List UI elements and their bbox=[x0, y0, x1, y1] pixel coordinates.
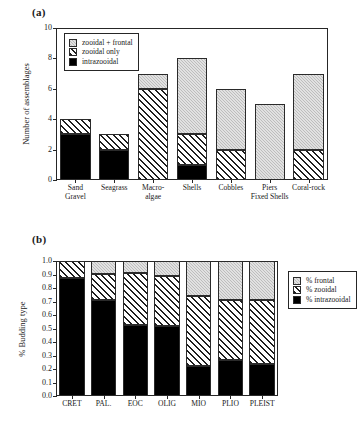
bar-cret bbox=[59, 261, 84, 396]
bar-segment-zooidal bbox=[249, 300, 274, 364]
y-tick-label: 0.7 bbox=[30, 298, 52, 306]
bar-coral-rock bbox=[293, 28, 323, 180]
bar-segment-intrazooidal bbox=[177, 165, 207, 180]
x-tick-label: Shells bbox=[170, 184, 214, 193]
x-tick-label: PLEIST bbox=[245, 400, 279, 409]
bar-cobbles bbox=[216, 28, 246, 180]
chart-a-y-axis-title: Number of assemblages bbox=[21, 63, 31, 145]
bar-segment-zooidal-frontal bbox=[177, 58, 207, 134]
chart-a-legend: zooidal + frontalzooidal onlyintrazooida… bbox=[64, 33, 139, 71]
bar-segment-zooidal-frontal bbox=[293, 74, 323, 150]
legend-swatch-icon bbox=[293, 277, 301, 285]
bar-segment-intrazooidal bbox=[249, 364, 274, 396]
y-tick-mark bbox=[53, 261, 57, 262]
y-tick-mark bbox=[53, 28, 57, 29]
y-tick-label: 1.0 bbox=[30, 257, 52, 265]
y-tick-label: 0.9 bbox=[30, 271, 52, 279]
legend-label: % frontal bbox=[306, 277, 334, 285]
bar-segment-zooidal bbox=[154, 276, 179, 326]
bar-segment-frontal bbox=[154, 261, 179, 276]
bar-segment-frontal bbox=[249, 261, 274, 300]
y-tick-label: 6 bbox=[30, 85, 52, 93]
legend-label: % intrazooidal bbox=[306, 296, 351, 304]
bar-segment-intrazooidal bbox=[91, 300, 116, 396]
y-tick-label: 0 bbox=[30, 176, 52, 184]
bar-segment-zooidal-frontal bbox=[216, 89, 246, 150]
bar-segment-zooidal bbox=[91, 274, 116, 300]
bar-piers bbox=[255, 28, 285, 180]
y-tick-label: 2 bbox=[30, 146, 52, 154]
y-tick-label: 0.6 bbox=[30, 311, 52, 319]
y-tick-label: 0.2 bbox=[30, 365, 52, 373]
bar-segment-zooidal-only bbox=[99, 134, 129, 149]
legend-swatch-icon bbox=[293, 286, 301, 294]
bar-segment-zooidal-only bbox=[138, 89, 168, 180]
bar-segment-zooidal-only bbox=[60, 119, 90, 134]
bar-segment-intrazooidal bbox=[59, 278, 84, 396]
bar-segment-intrazooidal bbox=[99, 150, 129, 180]
bar-segment-intrazooidal bbox=[154, 326, 179, 396]
legend-item: % zooidal bbox=[293, 286, 351, 294]
bar-pleist bbox=[249, 261, 274, 396]
bar-segment-zooidal-only bbox=[177, 134, 207, 164]
x-tick-label: PAL. bbox=[87, 400, 121, 409]
panel-a: (a) Number of assemblages 0246810 Sand G… bbox=[0, 0, 364, 215]
chart-b-plot bbox=[56, 261, 278, 396]
x-tick-label: Sand Gravel bbox=[53, 184, 97, 201]
legend-label: % zooidal bbox=[306, 286, 337, 294]
y-tick-mark bbox=[53, 315, 57, 316]
y-tick-label: 0.1 bbox=[30, 379, 52, 387]
bar-olig bbox=[154, 261, 179, 396]
chart-b-y-axis-title: % Budding type bbox=[17, 301, 27, 356]
bar-mio bbox=[186, 261, 211, 396]
bar-eoc bbox=[123, 261, 148, 396]
y-tick-mark bbox=[53, 288, 57, 289]
x-tick-label: Coral-rock bbox=[287, 184, 331, 193]
legend-swatch-icon bbox=[69, 58, 77, 66]
panel-a-label: (a) bbox=[32, 6, 46, 18]
legend-item: % frontal bbox=[293, 277, 351, 285]
y-tick-mark bbox=[53, 396, 57, 397]
bar-segment-frontal bbox=[91, 261, 116, 274]
x-tick-label: MIO bbox=[182, 400, 216, 409]
bar-segment-frontal bbox=[123, 261, 148, 273]
y-tick-label: 8 bbox=[30, 54, 52, 62]
y-tick-mark bbox=[53, 383, 57, 384]
bar-segment-zooidal-only bbox=[293, 150, 323, 180]
legend-label: intrazooidal bbox=[82, 58, 118, 66]
y-tick-label: 0.0 bbox=[30, 392, 52, 400]
x-tick-label: EOC bbox=[118, 400, 152, 409]
bar-segment-frontal bbox=[218, 261, 243, 300]
x-tick-label: PLIO bbox=[213, 400, 247, 409]
y-tick-label: 10 bbox=[30, 24, 52, 32]
bar-segment-zooidal bbox=[218, 300, 243, 359]
legend-item: zooidal + frontal bbox=[69, 39, 133, 47]
legend-label: zooidal + frontal bbox=[82, 39, 133, 47]
legend-swatch-icon bbox=[69, 48, 77, 56]
bar-segment-intrazooidal bbox=[218, 360, 243, 396]
y-tick-mark bbox=[53, 342, 57, 343]
legend-item: zooidal only bbox=[69, 48, 133, 56]
bar-segment-intrazooidal bbox=[123, 325, 148, 396]
panel-b-label: (b) bbox=[32, 233, 46, 245]
bar-segment-zooidal bbox=[123, 273, 148, 325]
legend-swatch-icon bbox=[69, 39, 77, 47]
y-tick-label: 0.4 bbox=[30, 338, 52, 346]
y-tick-mark bbox=[53, 119, 57, 120]
chart-b-bars bbox=[56, 261, 278, 396]
bar-shells bbox=[177, 28, 207, 180]
panel-b: (b) % Budding type 0.00.10.20.30.40.50.6… bbox=[0, 215, 364, 438]
bar-macro bbox=[138, 28, 168, 180]
y-tick-mark bbox=[53, 180, 57, 181]
x-tick-label: Macro- algae bbox=[131, 184, 175, 201]
y-tick-mark bbox=[53, 275, 57, 276]
chart-b-legend: % frontal% zooidal% intrazooidal bbox=[288, 271, 357, 309]
bar-segment-zooidal-frontal bbox=[255, 104, 285, 180]
x-tick-label: Cobbles bbox=[209, 184, 253, 193]
y-tick-mark bbox=[53, 329, 57, 330]
bar-plio bbox=[218, 261, 243, 396]
y-tick-label: 0.3 bbox=[30, 352, 52, 360]
y-tick-mark bbox=[53, 58, 57, 59]
x-tick-label: Piers Fixed Shells bbox=[248, 184, 292, 201]
bar-segment-zooidal-frontal bbox=[138, 74, 168, 89]
